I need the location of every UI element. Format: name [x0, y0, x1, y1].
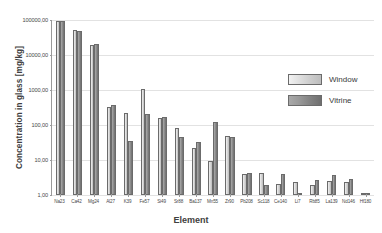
legend-item-vitrine: Vitrine: [288, 95, 357, 106]
x-axis-label-cell: La139: [323, 197, 340, 213]
bar-group: [69, 20, 86, 195]
bar-vitrine-mn55: [213, 122, 218, 195]
bar-vitrine-mg24: [94, 44, 99, 195]
bar-vitrine-sc118: [264, 185, 269, 195]
x-axis-label-cell: Pb208: [238, 197, 255, 213]
x-axis-tick-mark: [196, 194, 197, 197]
bar-group: [222, 20, 239, 195]
x-axis-tick-mark: [281, 194, 282, 197]
x-axis-label-cell: Zr90: [221, 197, 238, 213]
bar-group: [171, 20, 188, 195]
x-axis-tick-mark: [162, 194, 163, 197]
y-axis-tick-label: 100,00: [31, 122, 48, 128]
bar-vitrine-nd146: [349, 179, 354, 195]
bar-group: [86, 20, 103, 195]
bar-vitrine-la139: [332, 175, 337, 195]
x-axis-tick-mark: [128, 194, 129, 197]
x-axis-tick-label: Na23: [54, 199, 64, 213]
x-axis-tick-label: Nd146: [342, 199, 355, 213]
x-axis-tick-mark: [315, 194, 316, 197]
legend-item-window: Window: [288, 74, 357, 85]
y-axis-tick-mark: [50, 195, 52, 196]
x-axis-label-cell: Mg24: [85, 197, 102, 213]
x-axis-tick-label: Rb85: [309, 199, 319, 213]
bar-group: [154, 20, 171, 195]
bar-vitrine-zr90: [230, 137, 235, 195]
x-axis-label-cell: Sc118: [255, 197, 272, 213]
y-axis-title: Concentration in glass [mg/kg]: [15, 13, 24, 203]
bar-series-container: [52, 20, 374, 195]
bar-vitrine-rb85: [315, 180, 320, 195]
x-axis-label-cell: Li7: [289, 197, 306, 213]
bar-vitrine-sr88: [179, 137, 184, 195]
x-axis-label-cell: Ca42: [68, 197, 85, 213]
bar-group: [120, 20, 137, 195]
bar-group: [272, 20, 289, 195]
x-axis-label-cell: Al27: [102, 197, 119, 213]
x-axis-tick-mark: [213, 194, 214, 197]
chart-legend: Window Vitrine: [288, 74, 357, 106]
bar-group: [103, 20, 120, 195]
x-axis-tick-label: Zr90: [225, 199, 234, 213]
bar-vitrine-k39: [128, 141, 133, 195]
x-axis-tick-mark: [332, 194, 333, 197]
bar-vitrine-ce140: [281, 174, 286, 195]
x-axis-tick-label: Hf180: [360, 199, 372, 213]
x-axis-tick-mark: [77, 194, 78, 197]
x-axis-label-cell: Si49: [153, 197, 170, 213]
y-axis-tick-label: 1,00: [38, 192, 49, 198]
x-axis-label-cell: Fe57: [136, 197, 153, 213]
legend-label-window: Window: [329, 75, 357, 84]
x-axis-label-cell: Rb85: [306, 197, 323, 213]
x-axis-label-cell: Mn55: [204, 197, 221, 213]
x-axis-label-cell: Ba137: [187, 197, 204, 213]
y-axis-tick-label: 1000,00: [28, 87, 48, 93]
x-axis-tick-mark: [264, 194, 265, 197]
x-axis-tick-mark: [298, 194, 299, 197]
bar-vitrine-si49: [162, 117, 167, 195]
y-axis-tick-label: 10000,00: [25, 52, 48, 58]
bar-vitrine-li7: [298, 193, 303, 195]
bar-vitrine-al27: [111, 105, 116, 195]
x-axis-tick-mark: [145, 194, 146, 197]
x-axis-tick-mark: [366, 194, 367, 197]
x-axis-tick-label: Sr88: [174, 199, 183, 213]
x-axis-title: Element: [0, 215, 382, 225]
x-axis-tick-mark: [60, 194, 61, 197]
x-axis-tick-label: Ce140: [274, 199, 287, 213]
x-axis-tick-label: Mg24: [88, 199, 99, 213]
y-axis-tick-label: 10,00: [35, 157, 49, 163]
x-axis-tick-mark: [111, 194, 112, 197]
x-axis-label-cell: Sr88: [170, 197, 187, 213]
bar-chart: Concentration in glass [mg/kg] 100000,00…: [0, 0, 382, 233]
legend-swatch-window: [288, 74, 322, 85]
x-axis-tick-label: Si49: [157, 199, 166, 213]
x-axis-label-cell: K39: [119, 197, 136, 213]
x-axis-tick-mark: [349, 194, 350, 197]
x-axis-tick-label: K39: [124, 199, 132, 213]
x-axis-label-cell: Nd146: [340, 197, 357, 213]
bar-group: [289, 20, 306, 195]
bar-group: [255, 20, 272, 195]
legend-swatch-vitrine: [288, 95, 322, 106]
bar-vitrine-ba137: [196, 142, 201, 195]
bar-group: [52, 20, 69, 195]
bar-vitrine-na23: [60, 21, 65, 195]
x-axis-tick-label: Pb208: [240, 199, 253, 213]
bar-group: [205, 20, 222, 195]
bar-group: [238, 20, 255, 195]
x-axis-tick-label: La139: [325, 199, 337, 213]
bar-group: [137, 20, 154, 195]
x-axis-tick-mark: [179, 194, 180, 197]
legend-label-vitrine: Vitrine: [329, 96, 352, 105]
x-axis-label-cell: Na23: [51, 197, 68, 213]
x-axis-tick-mark: [247, 194, 248, 197]
bar-group: [357, 20, 374, 195]
x-axis-tick-mark: [94, 194, 95, 197]
bar-group: [323, 20, 340, 195]
x-axis-tick-mark: [230, 194, 231, 197]
bar-vitrine-fe57: [145, 114, 150, 195]
x-axis-tick-label: Sc118: [258, 199, 270, 213]
bar-vitrine-ca42: [77, 31, 82, 195]
bar-group: [340, 20, 357, 195]
